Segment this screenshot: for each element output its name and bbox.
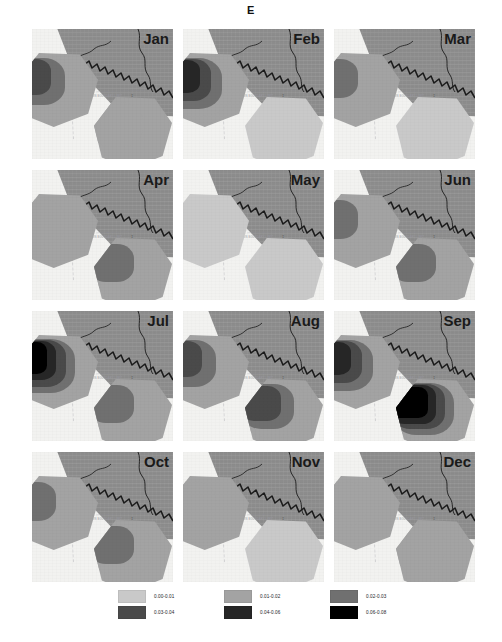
zone-b-lower-right xyxy=(396,379,474,441)
legend-label-6: 0.06-0.08 xyxy=(366,610,386,615)
zone-a-upper-left-class-2-band xyxy=(334,200,358,239)
zone-a-upper-left-shape xyxy=(334,53,400,127)
zone-b-lower-right-shape xyxy=(396,379,474,441)
zone-a-upper-left-shape xyxy=(334,335,400,409)
map-panel-aug[interactable]: BASIN BOUNDARY LIMIT‡Aug xyxy=(183,311,324,441)
map-panel-jun[interactable]: BASIN BOUNDARY LIMIT‡Jun xyxy=(334,170,475,300)
month-label: Apr xyxy=(143,171,169,188)
zone-b-lower-right-shape xyxy=(245,238,323,300)
zone-a-upper-left xyxy=(32,194,98,268)
legend: 0.00-0.010.01-0.020.02-0.030.03-0.040.04… xyxy=(0,586,502,626)
zone-a-upper-left-shape xyxy=(32,476,98,550)
zone-b-lower-right-class-1-band xyxy=(90,102,143,147)
zone-a-upper-left-class-4-band xyxy=(183,60,200,94)
zone-a-upper-left-class-4-band xyxy=(334,342,351,376)
zone-a-upper-left xyxy=(183,53,249,127)
zone-a-upper-left-shape xyxy=(183,335,249,409)
month-label: Nov xyxy=(292,453,320,470)
zone-b-lower-right-base-fill xyxy=(245,238,323,300)
month-label: Feb xyxy=(293,30,320,47)
legend-label-4: 0.03-0.04 xyxy=(154,610,174,615)
figure-letter: E xyxy=(0,4,502,16)
zone-b-lower-right-class-2-band xyxy=(391,244,436,282)
zone-b-lower-right xyxy=(245,520,323,582)
zone-b-lower-right-shape xyxy=(94,97,172,159)
month-label: Sep xyxy=(443,312,471,329)
legend-label-5: 0.04-0.06 xyxy=(260,610,280,615)
zone-b-lower-right xyxy=(396,520,474,582)
zone-a-upper-left xyxy=(334,194,400,268)
month-label: Dec xyxy=(443,453,471,470)
zone-a-upper-left xyxy=(334,476,400,550)
legend-swatch-3 xyxy=(330,590,358,603)
zone-a-upper-left xyxy=(334,53,400,127)
legend-label-1: 0.00-0.01 xyxy=(154,594,174,599)
map-panel-jul[interactable]: BASIN BOUNDARY LIMIT‡Jul xyxy=(32,311,173,441)
zone-b-lower-right-shape xyxy=(245,97,323,159)
zone-a-upper-left xyxy=(32,335,98,409)
zone-a-upper-left-class-5-band xyxy=(32,342,47,374)
map-panel-oct[interactable]: BASIN BOUNDARY LIMIT‡Oct xyxy=(32,452,173,582)
zone-b-lower-right-class-2-band xyxy=(89,244,134,282)
month-label: Jan xyxy=(143,30,169,47)
legend-label-3: 0.02-0.03 xyxy=(366,594,386,599)
zone-b-lower-right-shape xyxy=(94,238,172,300)
zone-b-lower-right-class-2-band xyxy=(89,385,134,423)
zone-a-upper-left-shape xyxy=(183,476,249,550)
zone-b-lower-right-shape xyxy=(396,238,474,300)
legend-swatch-6 xyxy=(330,606,358,619)
legend-swatch-5 xyxy=(224,606,252,619)
map-panel-dec[interactable]: BASIN BOUNDARY LIMIT‡Dec xyxy=(334,452,475,582)
zone-a-upper-left-shape xyxy=(32,194,98,268)
zone-a-upper-left xyxy=(183,194,249,268)
zone-b-lower-right-shape xyxy=(396,97,474,159)
zone-b-lower-right xyxy=(94,97,172,159)
month-label: Mar xyxy=(444,30,471,47)
zone-a-upper-left-class-2-band xyxy=(334,59,358,98)
zone-b-lower-right xyxy=(94,379,172,441)
zone-b-lower-right-shape xyxy=(245,520,323,582)
zone-b-lower-right xyxy=(245,379,323,441)
zone-a-upper-left xyxy=(334,335,400,409)
zone-b-lower-right-shape xyxy=(245,379,323,441)
zone-a-upper-left-shape xyxy=(334,476,400,550)
zone-a-upper-left-shape xyxy=(183,53,249,127)
map-panel-sep[interactable]: BASIN BOUNDARY LIMIT‡Sep xyxy=(334,311,475,441)
zone-b-lower-right-base-fill xyxy=(396,97,474,159)
monthly-map-grid: BASIN BOUNDARY LIMIT‡JanBASIN BOUNDARY L… xyxy=(32,29,476,570)
zone-b-lower-right-class-5-band xyxy=(390,387,427,418)
legend-item-3: 0.02-0.03 xyxy=(330,590,386,603)
zone-b-lower-right xyxy=(245,238,323,300)
zone-b-lower-right xyxy=(94,238,172,300)
map-panel-jan[interactable]: BASIN BOUNDARY LIMIT‡Jan xyxy=(32,29,173,159)
legend-item-6: 0.06-0.08 xyxy=(330,606,386,619)
month-label: Aug xyxy=(291,312,320,329)
month-label: Jul xyxy=(147,312,169,329)
zone-b-lower-right xyxy=(396,97,474,159)
legend-item-2: 0.01-0.02 xyxy=(224,590,280,603)
zone-a-upper-left-class-2-band xyxy=(32,482,56,521)
legend-swatch-2 xyxy=(224,590,252,603)
map-panel-may[interactable]: BASIN BOUNDARY LIMIT‡May xyxy=(183,170,324,300)
zone-b-lower-right-class-3-band xyxy=(240,386,281,421)
month-label: May xyxy=(291,171,320,188)
zone-a-upper-left-shape xyxy=(32,335,98,409)
month-label: Jun xyxy=(444,171,471,188)
zone-a-upper-left xyxy=(32,476,98,550)
figure-panel-e: E BASIN BOUNDARY LIMIT‡JanBASIN BOUNDARY… xyxy=(0,0,502,642)
zone-b-lower-right-base-fill xyxy=(245,97,323,159)
map-panel-feb[interactable]: BASIN BOUNDARY LIMIT‡Feb xyxy=(183,29,324,159)
map-panel-apr[interactable]: BASIN BOUNDARY LIMIT‡Apr xyxy=(32,170,173,300)
map-panel-mar[interactable]: BASIN BOUNDARY LIMIT‡Mar xyxy=(334,29,475,159)
zone-b-lower-right xyxy=(245,97,323,159)
zone-a-upper-left xyxy=(183,335,249,409)
zone-b-lower-right-shape xyxy=(94,379,172,441)
zone-b-lower-right xyxy=(94,520,172,582)
zone-b-lower-right-shape xyxy=(396,520,474,582)
zone-b-lower-right-shape xyxy=(94,520,172,582)
map-panel-nov[interactable]: BASIN BOUNDARY LIMIT‡Nov xyxy=(183,452,324,582)
legend-item-5: 0.04-0.06 xyxy=(224,606,280,619)
zone-b-lower-right xyxy=(396,238,474,300)
legend-item-1: 0.00-0.01 xyxy=(118,590,174,603)
month-label: Oct xyxy=(144,453,169,470)
